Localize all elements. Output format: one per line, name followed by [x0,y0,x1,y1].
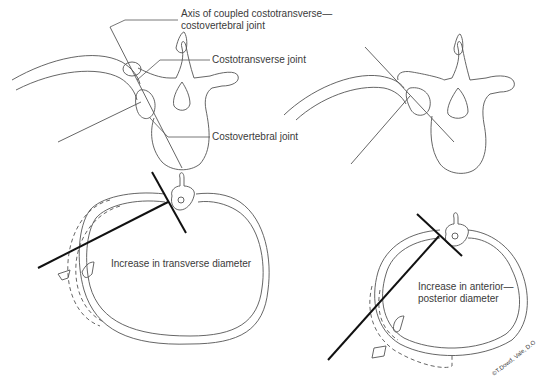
rib-inner-edge [16,71,137,100]
axis-label-leader [110,20,178,27]
costovertebral-joint-label: Costovertebral joint [212,131,298,142]
costovertebral-joint-outline [406,88,430,116]
small-vertebral-foramen [452,233,458,239]
transverse-diameter-caption: Increase in transverse diameter [111,258,252,269]
axis-line-thick [417,214,462,256]
costotransverse-joint-circle [123,62,141,76]
artist-signature: ©T.Dowd, Vale, D.O [491,339,537,377]
bottom-left-thorax-figure: Increase in transverse diameter [38,172,269,344]
rib-outer-edge [12,56,140,84]
vertebral-foramen [173,82,190,110]
axis-line [365,47,454,142]
axis-line [110,27,182,168]
vertebral-foramen [448,88,468,118]
top-left-vertebra-figure: Axis of coupled costotransverse— costove… [12,8,332,170]
bottom-right-thorax-figure: Increase in anterior— posterior diameter… [328,213,537,377]
costotransverse-joint-label: Costotransverse joint [212,54,306,65]
rib-motion-line [58,102,141,142]
ap-diameter-caption-line2: posterior diameter [418,293,499,304]
rib-outer-edge [284,75,404,115]
axis-label-line1: Axis of coupled costotransverse— [181,8,332,19]
rib-motion-diagram: Axis of coupled costotransverse— costove… [0,0,539,386]
sternum-stub [393,316,404,332]
expansion-arrow [372,346,386,358]
rib-expanded-inner-dashed [379,290,398,340]
small-vertebral-foramen [178,197,184,203]
costotransverse-joint-outline [398,71,444,80]
vertebra-outline [431,42,514,174]
costovertebral-label-leader [150,118,210,137]
rib-inner-edge [296,87,406,120]
costovertebral-joint-outline [136,90,155,119]
top-right-vertebra-figure [284,34,514,173]
rib-motion-line [351,96,410,164]
ap-diameter-caption-line1: Increase in anterior— [418,281,514,292]
small-vertebra [171,173,194,210]
axis-line-thick [152,172,186,233]
small-vertebra [445,213,468,246]
axis-label-line2: costovertebral joint [181,20,265,31]
